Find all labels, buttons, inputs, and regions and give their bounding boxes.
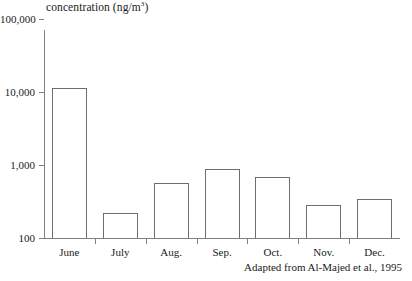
x-axis-line [44,238,400,239]
bar-aug [154,183,189,238]
x-axis-tick [146,239,147,244]
y-axis-tick-label: 1,000 [0,160,35,171]
x-axis-tick [197,239,198,244]
y-axis-tick [39,238,44,239]
source-note: Adapted from Al-Majed et al., 1995 [244,262,402,273]
y-axis-tick-label: 100,000 [0,14,35,25]
x-axis-tick [298,239,299,244]
y-axis-tick-label: 10,000 [0,87,35,98]
bar-july [103,213,138,238]
y-axis-line [44,30,45,239]
y-axis-title-suffix: ) [144,1,148,13]
bar-dec [357,199,392,238]
bar-june [52,88,87,238]
y-axis-tick [39,165,44,166]
plot-area: 100,00010,0001,000100 [44,30,400,238]
x-axis-tick [247,239,248,244]
x-axis-label: Dec. [335,247,412,258]
bar-sep [205,169,240,238]
bar-oct [255,177,290,238]
y-axis-tick [39,92,44,93]
y-axis-tick [39,19,44,20]
x-axis-tick [349,239,350,244]
bar-nov [306,205,341,238]
y-axis-title: concentration (ng/m3) [46,1,148,13]
bar-chart-figure: concentration (ng/m3) 100,00010,0001,000… [0,0,412,281]
y-axis-title-text: concentration (ng/m [46,1,141,13]
x-axis-tick [95,239,96,244]
y-axis-tick-label: 100 [0,233,35,244]
